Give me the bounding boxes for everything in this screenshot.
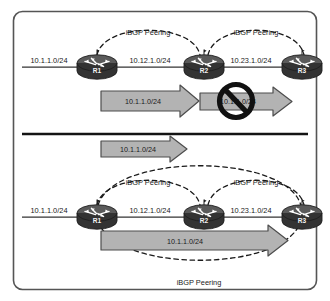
bottom-peering-label-r2-r3: iBGP Peering — [234, 178, 279, 187]
bottom-segment-label-r1-r2: 10.12.1.0/24 — [129, 206, 170, 215]
bottom-advertisement-arrow-r1-r3: 10.1.1.0/24 — [101, 225, 288, 256]
top-panel: iBGP Peering iBGP Peering 10.1.1.0/24 10… — [22, 28, 322, 118]
bottom-segment-label-stub-left: 10.1.1.0/24 — [31, 206, 68, 215]
top-advertisement-label-r1-r2: 10.1.1.0/24 — [125, 97, 161, 106]
top-router-r3-label: R3 — [298, 67, 307, 74]
top-segment-label-r2-r3: 10.23.1.0/24 — [230, 56, 271, 65]
bottom-incoming-advertisement-arrow: 10.1.1.0/24 — [101, 136, 187, 162]
bottom-router-r1: R1 — [77, 200, 117, 230]
top-peering-label-r2-r3: iBGP Peering — [234, 28, 279, 37]
top-peering-label-r1-r2: iBGP Peering — [126, 28, 171, 37]
bottom-router-r2-label: R2 — [200, 217, 209, 224]
bottom-segment-label-r2-r3: 10.23.1.0/24 — [230, 206, 271, 215]
bottom-panel: 10.1.1.0/24 iBGP Peering iBGP Peering iB… — [22, 136, 322, 287]
top-router-r2: R2 — [184, 50, 224, 80]
top-router-r1: R1 — [77, 50, 117, 80]
top-advertisement-arrow-r1-r2: 10.1.1.0/24 — [101, 85, 199, 117]
top-router-r1-label: R1 — [93, 67, 102, 74]
bottom-router-r1-label: R1 — [93, 217, 102, 224]
bottom-peering-label-r1-r3: iBGP Peering — [177, 278, 222, 287]
bottom-router-r2: R2 — [184, 200, 224, 230]
top-segment-label-r1-r2: 10.12.1.0/24 — [129, 56, 170, 65]
top-segment-label-stub-left: 10.1.1.0/24 — [31, 56, 68, 65]
bottom-peering-label-r1-r2: iBGP Peering — [126, 178, 171, 187]
bgp-diagram-figure: iBGP Peering iBGP Peering 10.1.1.0/24 10… — [0, 0, 330, 301]
bottom-advertisement-label-r1-r3: 10.1.1.0/24 — [167, 237, 203, 246]
bottom-incoming-advertisement-label: 10.1.1.0/24 — [120, 145, 156, 154]
bottom-router-r3-label: R3 — [298, 217, 307, 224]
top-router-r2-label: R2 — [200, 67, 209, 74]
diagram-canvas: iBGP Peering iBGP Peering 10.1.1.0/24 10… — [0, 0, 330, 301]
